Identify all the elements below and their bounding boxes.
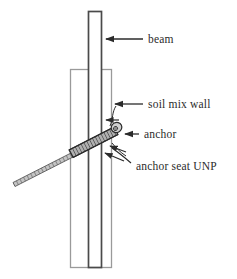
anchor-rod-tail bbox=[13, 153, 73, 187]
label-anchor: anchor bbox=[144, 128, 177, 140]
diagram-canvas: beam soil mix wall anchor anchor seat UN… bbox=[0, 0, 237, 279]
label-beam: beam bbox=[148, 33, 174, 45]
label-soil-mix-wall: soil mix wall bbox=[148, 98, 211, 110]
label-anchor-seat-unp: anchor seat UNP bbox=[136, 160, 217, 172]
anchor-detail-figure: beam soil mix wall anchor anchor seat UN… bbox=[0, 0, 237, 279]
